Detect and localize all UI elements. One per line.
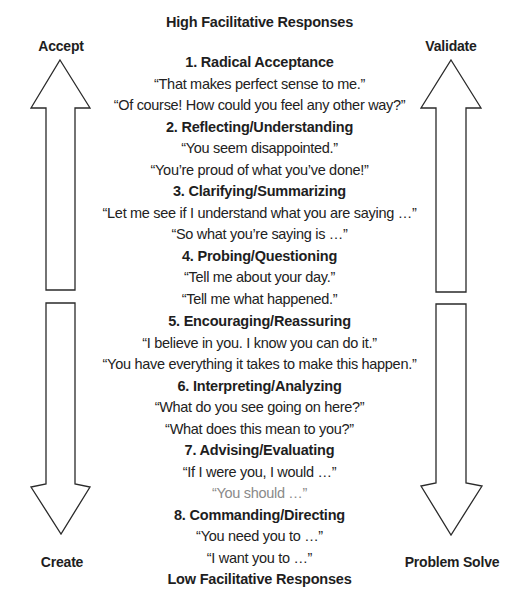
low-responses-list: 5. Encouraging/Reassuring “I believe in … <box>0 311 519 591</box>
response-item-3: 3. Clarifying/Summarizing “Let me see if… <box>0 181 519 246</box>
response-heading: 1. Radical Acceptance <box>0 52 519 74</box>
response-item-5: 5. Encouraging/Reassuring “I believe in … <box>0 311 519 376</box>
response-quote: “Tell me what happened.” <box>0 289 519 311</box>
response-quote: “You have everything it takes to make th… <box>0 354 519 376</box>
low-facilitative-title: Low Facilitative Responses <box>0 569 519 591</box>
response-heading: 4. Probing/Questioning <box>0 246 519 268</box>
high-facilitative-title: High Facilitative Responses <box>0 14 519 30</box>
response-item-7: 7. Advising/Evaluating “If I were you, I… <box>0 440 519 505</box>
response-heading: 6. Interpreting/Analyzing <box>0 376 519 398</box>
response-quote: “I want you to …” <box>0 548 519 570</box>
response-quote: “You seem disappointed.” <box>0 138 519 160</box>
response-quote: “Tell me about your day.” <box>0 267 519 289</box>
response-quote: “I believe in you. I know you can do it.… <box>0 333 519 355</box>
response-quote: “What do you see going on here?” <box>0 397 519 419</box>
response-quote: “That makes perfect sense to me.” <box>0 74 519 96</box>
response-item-2: 2. Reflecting/Understanding “You seem di… <box>0 117 519 182</box>
response-item-1: 1. Radical Acceptance “That makes perfec… <box>0 52 519 117</box>
response-heading: 5. Encouraging/Reassuring <box>0 311 519 333</box>
response-quote: “What does this mean to you?” <box>0 419 519 441</box>
response-item-6: 6. Interpreting/Analyzing “What do you s… <box>0 376 519 441</box>
response-quote: “Let me see if I understand what you are… <box>0 203 519 225</box>
response-quote: “You’re proud of what you’ve done!” <box>0 160 519 182</box>
response-heading: 3. Clarifying/Summarizing <box>0 181 519 203</box>
response-quote: “You need you to …” <box>0 526 519 548</box>
response-quote: “Of course! How could you feel any other… <box>0 95 519 117</box>
response-heading: 8. Commanding/Directing <box>0 505 519 527</box>
response-item-8: 8. Commanding/Directing “You need you to… <box>0 505 519 570</box>
response-quote: “If I were you, I would …” <box>0 462 519 484</box>
high-responses-list: 1. Radical Acceptance “That makes perfec… <box>0 52 519 310</box>
response-heading: 7. Advising/Evaluating <box>0 440 519 462</box>
response-heading: 2. Reflecting/Understanding <box>0 117 519 139</box>
response-item-4: 4. Probing/Questioning “Tell me about yo… <box>0 246 519 311</box>
response-quote: “So what you’re saying is …” <box>0 224 519 246</box>
response-quote: “You should …” <box>0 483 519 505</box>
